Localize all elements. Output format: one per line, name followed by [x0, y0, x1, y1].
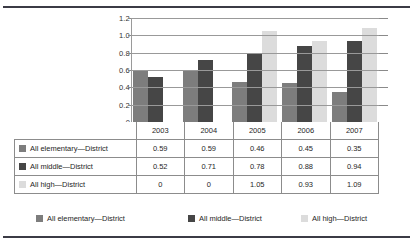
legend-color-swatch-icon [301, 215, 308, 222]
series-color-swatch-icon [19, 145, 26, 152]
table-header-row: 20032004200520062007 [15, 122, 379, 140]
top-divider-rule [3, 6, 410, 8]
table-value-cell: 0.59 [185, 140, 234, 158]
table-year-header: 2007 [330, 122, 379, 140]
gridline [131, 53, 379, 54]
table-series-label-cell: All elementary—District [15, 140, 137, 158]
table-corner-cell [15, 122, 137, 140]
right-tick-mark [379, 35, 388, 36]
right-tick-mark [379, 18, 388, 19]
table-series-label-cell: All high—District [15, 176, 137, 194]
legend-item[interactable]: All middle—District [188, 214, 301, 223]
table-value-cell: 0 [136, 176, 185, 194]
y-axis-tick [128, 105, 131, 106]
table-value-cell: 0.59 [136, 140, 185, 158]
table-year-header: 2006 [282, 122, 331, 140]
bar[interactable] [282, 83, 297, 122]
y-axis-tick [128, 35, 131, 36]
right-tick-mark [379, 87, 388, 88]
y-axis-tick [128, 53, 131, 54]
table-year-header: 2003 [136, 122, 185, 140]
table-value-cell: 0.52 [136, 158, 185, 176]
table-value-cell: 0.46 [233, 140, 282, 158]
plot-area: 1.21.00.80.60.40.20 [0, 18, 413, 128]
gridline [131, 105, 379, 106]
y-axis-tick [128, 87, 131, 88]
legend-item[interactable]: All elementary—District [36, 214, 188, 223]
chart-legend: All elementary—DistrictAll middle—Distri… [14, 214, 399, 223]
data-table: 20032004200520062007All elementary—Distr… [14, 122, 379, 194]
table-value-cell: 0.94 [330, 158, 379, 176]
legend-label: All middle—District [199, 214, 262, 223]
table-value-cell: 0.93 [282, 176, 331, 194]
gridline [131, 35, 379, 36]
series-color-swatch-icon [19, 163, 26, 170]
gridline [131, 87, 379, 88]
table-series-label: All high—District [30, 180, 85, 189]
table-value-cell: 0 [185, 176, 234, 194]
bar[interactable] [297, 46, 312, 122]
series-color-swatch-icon [19, 181, 26, 188]
table-year-header: 2005 [233, 122, 282, 140]
table-value-cell: 1.05 [233, 176, 282, 194]
bottom-divider-rule [3, 236, 410, 238]
legend-color-swatch-icon [188, 215, 195, 222]
gridline [131, 18, 379, 19]
legend-label: All high—District [312, 214, 367, 223]
bar[interactable] [262, 31, 277, 122]
y-axis-tick [128, 18, 131, 19]
bar[interactable] [362, 28, 377, 122]
table-value-cell: 0.71 [185, 158, 234, 176]
table-value-cell: 0.45 [282, 140, 331, 158]
table-year-header: 2004 [185, 122, 234, 140]
chart-figure: 1.21.00.80.60.40.20 20032004200520062007… [0, 0, 413, 245]
table-value-cell: 0.78 [233, 158, 282, 176]
table-row: All elementary—District0.590.590.460.450… [15, 140, 379, 158]
table-value-cell: 0.35 [330, 140, 379, 158]
table-row: All middle—District0.520.710.780.880.94 [15, 158, 379, 176]
table-series-label: All elementary—District [30, 144, 108, 153]
bar[interactable] [332, 92, 347, 122]
plot-canvas [131, 18, 379, 122]
bar[interactable] [148, 77, 163, 122]
table-value-cell: 1.09 [330, 176, 379, 194]
right-tick-mark [379, 105, 388, 106]
y-axis-tick-labels: 1.21.00.80.60.40.20 [108, 18, 130, 122]
legend-item[interactable]: All high—District [301, 214, 367, 223]
table-series-label: All middle—District [30, 162, 93, 171]
bar[interactable] [133, 71, 148, 122]
legend-color-swatch-icon [36, 215, 43, 222]
bar[interactable] [183, 71, 198, 122]
table-row: All high—District001.050.931.09 [15, 176, 379, 194]
y-axis-tick [128, 70, 131, 71]
right-tick-mark [379, 53, 388, 54]
table-value-cell: 0.88 [282, 158, 331, 176]
right-tick-mark [379, 70, 388, 71]
table-series-label-cell: All middle—District [15, 158, 137, 176]
gridline [131, 70, 379, 71]
legend-label: All elementary—District [47, 214, 125, 223]
